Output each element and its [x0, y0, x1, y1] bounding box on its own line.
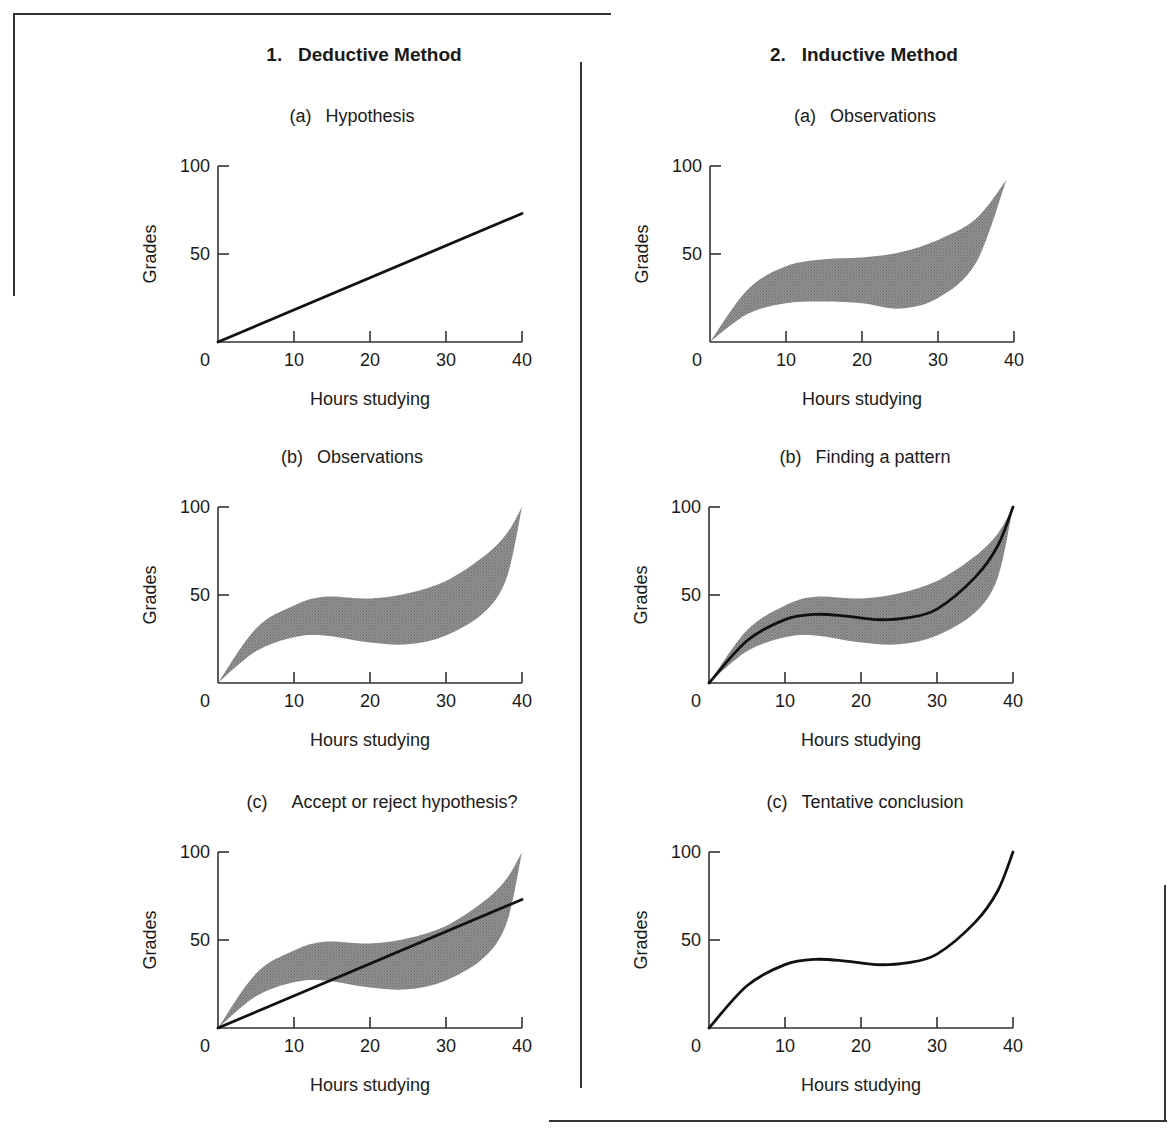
x-axis-title: Hours studying: [310, 730, 430, 750]
plot-area: 01020304010050Hours studyingGrades: [620, 106, 1060, 436]
hypothesis-line: [218, 214, 522, 342]
y-tick-label: 100: [180, 156, 210, 176]
x-tick-label: 10: [284, 1036, 304, 1056]
x-tick-label: 10: [775, 691, 795, 711]
y-tick-label: 50: [681, 930, 701, 950]
y-axis-title: Grades: [631, 910, 651, 969]
x-tick-label: 30: [436, 350, 456, 370]
x-tick-label: 40: [1003, 1036, 1023, 1056]
x-tick-label: 10: [775, 1036, 795, 1056]
panel-inductive-conclusion: (c)Tentative conclusion 01020304010050Ho…: [620, 792, 1060, 1122]
y-tick-label: 100: [672, 156, 702, 176]
y-tick-label: 50: [190, 930, 210, 950]
x-tick-label: 0: [200, 350, 210, 370]
x-tick-label: 30: [927, 691, 947, 711]
observation-band: [709, 507, 1013, 683]
panel-deductive-hypothesis: (a)Hypothesis 01020304010050Hours studyi…: [130, 106, 570, 436]
panel-inductive-pattern: (b)Finding a pattern 01020304010050Hours…: [620, 447, 1060, 777]
column-divider: [580, 62, 582, 1088]
inductive-method-title: 2. Inductive Method: [664, 44, 1064, 66]
x-tick-label: 10: [776, 350, 796, 370]
x-tick-label: 30: [436, 691, 456, 711]
x-axis-title: Hours studying: [801, 1075, 921, 1095]
y-axis-title: Grades: [140, 910, 160, 969]
x-tick-label: 0: [200, 1036, 210, 1056]
x-tick-label: 20: [360, 1036, 380, 1056]
plot-area: 01020304010050Hours studyingGrades: [130, 792, 570, 1122]
y-axis-title: Grades: [631, 565, 651, 624]
y-tick-label: 50: [681, 585, 701, 605]
x-tick-label: 30: [928, 350, 948, 370]
observation-band: [218, 852, 522, 1028]
x-tick-label: 40: [512, 350, 532, 370]
x-tick-label: 0: [691, 691, 701, 711]
x-tick-label: 0: [692, 350, 702, 370]
y-tick-label: 50: [190, 585, 210, 605]
y-tick-label: 50: [682, 244, 702, 264]
x-tick-label: 20: [852, 350, 872, 370]
x-tick-label: 0: [200, 691, 210, 711]
conclusion-line: [709, 852, 1013, 1028]
panel-deductive-accept-reject: (c)Accept or reject hypothesis? 01020304…: [130, 792, 570, 1122]
x-tick-label: 20: [360, 350, 380, 370]
plot-area: 01020304010050Hours studyingGrades: [130, 106, 570, 436]
plot-area: 01020304010050Hours studyingGrades: [620, 792, 1060, 1122]
y-tick-label: 50: [190, 244, 210, 264]
x-tick-label: 20: [851, 691, 871, 711]
deductive-method-title: 1. Deductive Method: [164, 44, 564, 66]
x-tick-label: 0: [691, 1036, 701, 1056]
x-tick-label: 10: [284, 691, 304, 711]
y-axis-title: Grades: [140, 565, 160, 624]
x-tick-label: 20: [851, 1036, 871, 1056]
x-tick-label: 10: [284, 350, 304, 370]
frame-left-border: [13, 13, 15, 296]
y-tick-label: 100: [671, 497, 701, 517]
frame-top-border: [13, 13, 611, 15]
y-tick-label: 100: [180, 842, 210, 862]
observation-band: [218, 507, 522, 683]
x-tick-label: 20: [360, 691, 380, 711]
x-tick-label: 30: [436, 1036, 456, 1056]
x-tick-label: 40: [1003, 691, 1023, 711]
y-axis-title: Grades: [140, 224, 160, 283]
x-axis-title: Hours studying: [802, 389, 922, 409]
x-tick-label: 40: [1004, 350, 1024, 370]
panel-deductive-observations: (b)Observations 01020304010050Hours stud…: [130, 447, 570, 777]
x-axis-title: Hours studying: [801, 730, 921, 750]
x-tick-label: 40: [512, 1036, 532, 1056]
observation-band: [710, 180, 1006, 342]
frame-right-border: [1164, 885, 1166, 1122]
panel-inductive-observations: (a)Observations 01020304010050Hours stud…: [620, 106, 1060, 436]
plot-area: 01020304010050Hours studyingGrades: [130, 447, 570, 777]
x-tick-label: 40: [512, 691, 532, 711]
x-axis-title: Hours studying: [310, 389, 430, 409]
y-tick-label: 100: [671, 842, 701, 862]
x-axis-title: Hours studying: [310, 1075, 430, 1095]
plot-area: 01020304010050Hours studyingGrades: [620, 447, 1060, 777]
y-tick-label: 100: [180, 497, 210, 517]
y-axis-title: Grades: [632, 224, 652, 283]
x-tick-label: 30: [927, 1036, 947, 1056]
